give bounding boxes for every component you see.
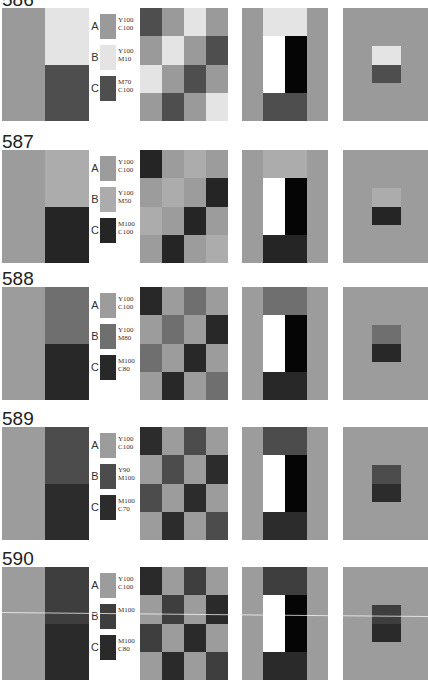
checker-cell-c xyxy=(184,344,206,372)
swatch-legend: AY100 C100BM100CM100 C80 xyxy=(91,567,137,680)
checker-cell-a xyxy=(184,455,206,483)
checker-cell-a xyxy=(184,595,206,623)
center-top-b xyxy=(372,465,401,484)
checker-cell-a xyxy=(206,567,228,595)
field-a xyxy=(2,567,45,680)
checker-cell-a xyxy=(140,595,162,623)
checker-cell-a xyxy=(206,207,228,235)
checker-cell-a xyxy=(184,178,206,206)
column-black xyxy=(285,178,307,235)
center-top-b xyxy=(372,46,401,65)
center-top-b xyxy=(372,325,401,344)
checker-cell-c xyxy=(140,427,162,455)
column-top-b xyxy=(263,8,307,36)
swatch-code-b: Y100 M10 xyxy=(118,47,134,63)
checker-cell-c xyxy=(184,624,206,652)
plate-row-586: 586AY100 C100BY100 M10CM70 C100 xyxy=(0,0,428,127)
checker-cell-a xyxy=(206,484,228,512)
checker-cell-a xyxy=(206,65,228,93)
checker-cell-b xyxy=(140,484,162,512)
checker-cell-b xyxy=(206,372,228,400)
swatch-code-a: Y100 C100 xyxy=(118,158,134,174)
column-white xyxy=(263,455,285,512)
checker-cell-c xyxy=(206,36,228,64)
swatch-b xyxy=(100,464,116,489)
center-bottom-c xyxy=(372,484,401,502)
checker-cell-a xyxy=(140,36,162,64)
center-pair-panel xyxy=(343,287,428,400)
checker-cell-a xyxy=(184,512,206,540)
contrast-column-panel xyxy=(242,150,328,263)
legend-letter-b: B xyxy=(91,193,99,205)
swatch-code-b: Y90 M100 xyxy=(118,466,135,482)
checker-cell-a xyxy=(162,207,184,235)
checker-cell-b xyxy=(184,8,206,36)
checker-cell-a xyxy=(206,150,228,178)
checker-cell-a xyxy=(140,178,162,206)
legend-letter-b: B xyxy=(91,330,99,342)
checker-cell-c xyxy=(162,652,184,680)
column-bottom-c xyxy=(263,512,307,540)
checker-cell-a xyxy=(162,484,184,512)
checkerboard-panel xyxy=(140,567,228,680)
swatch-code-c: M100 C80 xyxy=(118,357,135,373)
legend-letter-a: A xyxy=(91,439,99,451)
swatch-legend: AY100 C100BY100 M50CM100 C100 xyxy=(91,150,137,263)
swatch-code-b: Y100 M80 xyxy=(118,326,134,342)
checker-cell-c xyxy=(162,512,184,540)
contrast-column-panel xyxy=(242,567,328,680)
checker-cell-a xyxy=(206,344,228,372)
swatch-code-c: M100 C100 xyxy=(118,220,135,236)
field-c xyxy=(45,207,89,263)
swatch-code-c: M100 C70 xyxy=(118,497,135,513)
swatch-c xyxy=(100,355,116,380)
checker-cell-a xyxy=(162,567,184,595)
swatch-a xyxy=(100,156,116,181)
center-bottom-c xyxy=(372,344,401,362)
checker-cell-c xyxy=(162,93,184,121)
center-bottom-c xyxy=(372,624,401,642)
plate-row-587: 587AY100 C100BY100 M50CM100 C100 xyxy=(0,132,428,272)
checker-cell-c xyxy=(162,235,184,263)
column-white xyxy=(263,178,285,235)
legend-letter-b: B xyxy=(91,470,99,482)
swatch-b xyxy=(100,604,116,629)
checker-cell-c xyxy=(140,567,162,595)
checker-cell-b xyxy=(184,287,206,315)
swatch-c xyxy=(100,76,116,101)
legend-letter-c: C xyxy=(91,641,99,653)
column-bottom-c xyxy=(263,372,307,400)
center-pair-panel xyxy=(343,567,428,680)
legend-letter-c: C xyxy=(91,501,99,513)
legend-letter-c: C xyxy=(91,224,99,236)
checker-cell-b xyxy=(206,93,228,121)
swatch-c xyxy=(100,635,116,660)
column-top-b xyxy=(263,427,307,455)
swatch-code-c: M70 C100 xyxy=(118,78,133,94)
swatch-legend: AY100 C100BY100 M10CM70 C100 xyxy=(91,8,137,121)
checker-cell-a xyxy=(140,93,162,121)
checker-cell-a xyxy=(162,344,184,372)
center-pair-panel xyxy=(343,427,428,540)
center-pair-panel xyxy=(343,8,428,121)
checker-cell-c xyxy=(162,372,184,400)
swatch-legend: AY100 C100BY100 M80CM100 C80 xyxy=(91,287,137,400)
checker-cell-b xyxy=(140,207,162,235)
swatch-code-b: Y100 M50 xyxy=(118,189,134,205)
checker-cell-c xyxy=(184,65,206,93)
checker-cell-b xyxy=(184,567,206,595)
checkerboard-panel xyxy=(140,150,228,263)
swatch-code-a: Y100 C100 xyxy=(118,16,134,32)
center-top-b xyxy=(372,188,401,207)
checker-cell-b xyxy=(184,150,206,178)
column-white xyxy=(263,315,285,372)
legend-letter-a: A xyxy=(91,579,99,591)
checker-cell-a xyxy=(184,36,206,64)
field-b xyxy=(45,8,89,65)
field-c xyxy=(45,65,89,121)
swatch-a xyxy=(100,293,116,318)
checker-cell-a xyxy=(206,427,228,455)
field-c xyxy=(45,344,89,400)
swatch-b xyxy=(100,324,116,349)
checker-cell-c xyxy=(140,287,162,315)
